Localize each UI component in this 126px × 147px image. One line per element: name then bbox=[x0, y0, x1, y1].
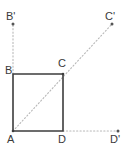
vertex-label-c-prime: C' bbox=[105, 11, 115, 22]
vertex-label-a: A bbox=[7, 134, 14, 145]
vertex-label-d: D bbox=[58, 134, 66, 145]
vertex-label-d-prime: D' bbox=[110, 134, 120, 145]
point-marker-c bbox=[62, 73, 65, 76]
point-marker-b-prime bbox=[12, 23, 15, 26]
vertex-label-b: B bbox=[5, 65, 12, 76]
point-marker-c-prime bbox=[111, 23, 114, 26]
point-marker-a bbox=[12, 130, 15, 133]
vertex-label-b-prime: B' bbox=[6, 11, 15, 22]
diagram-canvas: B' C' B C A D D' bbox=[0, 0, 126, 147]
vertex-label-c: C bbox=[58, 58, 66, 69]
geometry-figure bbox=[0, 0, 126, 147]
